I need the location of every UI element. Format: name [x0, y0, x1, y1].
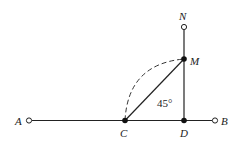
label-d: D — [179, 127, 188, 139]
point-d — [181, 118, 187, 124]
point-n — [181, 24, 186, 29]
point-m — [181, 56, 187, 62]
label-m: M — [189, 55, 200, 67]
point-b — [212, 118, 217, 123]
label-n: N — [178, 10, 187, 22]
geometry-diagram: A B C D M N 45° — [0, 0, 242, 146]
label-b: B — [221, 115, 228, 127]
point-c — [122, 118, 128, 124]
label-c: C — [120, 127, 128, 139]
label-a: A — [14, 115, 22, 127]
point-a — [26, 118, 31, 123]
angle-label: 45° — [157, 97, 172, 109]
line-cm — [125, 59, 184, 121]
